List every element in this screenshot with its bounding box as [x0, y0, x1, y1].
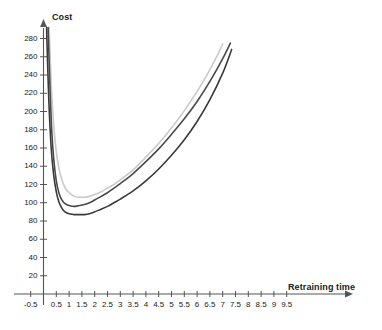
y-tick-label: 120 [8, 180, 38, 189]
y-tick-label: 200 [8, 107, 38, 116]
y-tick-label: 180 [8, 125, 38, 134]
chart-container: Cost Retraining time -0.50.511.522.533.5… [0, 0, 382, 330]
y-tick-label: 40 [8, 253, 38, 262]
y-tick-label: 100 [8, 198, 38, 207]
y-tick-label: 80 [8, 216, 38, 225]
y-tick-label: 280 [8, 34, 38, 43]
series-curve-dark [47, 28, 232, 215]
x-tick-label: 9.5 [278, 300, 296, 309]
x-axis-title: Retraining time [288, 282, 355, 292]
y-tick-label: 60 [8, 234, 38, 243]
cost-vs-retraining-time-chart [0, 0, 382, 330]
y-tick-label: 220 [8, 88, 38, 97]
y-tick-label: 140 [8, 161, 38, 170]
y-axis-arrow-icon [40, 19, 47, 27]
y-tick-label: 20 [8, 271, 38, 280]
series-curve-mid [48, 28, 230, 207]
y-tick-label: 240 [8, 70, 38, 79]
y-axis-title: Cost [52, 12, 72, 22]
y-tick-label: 160 [8, 143, 38, 152]
x-tick-label: -0.5 [22, 300, 40, 309]
y-tick-label: 260 [8, 52, 38, 61]
